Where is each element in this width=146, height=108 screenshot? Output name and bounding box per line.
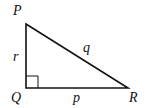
vertex-label-r: R	[128, 90, 138, 105]
triangle-pqr	[26, 24, 128, 88]
triangle-diagram: P Q R r q p	[0, 0, 146, 108]
vertex-label-q: Q	[11, 90, 21, 105]
side-label-r: r	[13, 49, 19, 64]
side-label-q: q	[83, 40, 90, 55]
vertex-label-p: P	[12, 3, 22, 18]
right-angle-marker	[26, 76, 38, 88]
side-label-p: p	[72, 90, 80, 105]
